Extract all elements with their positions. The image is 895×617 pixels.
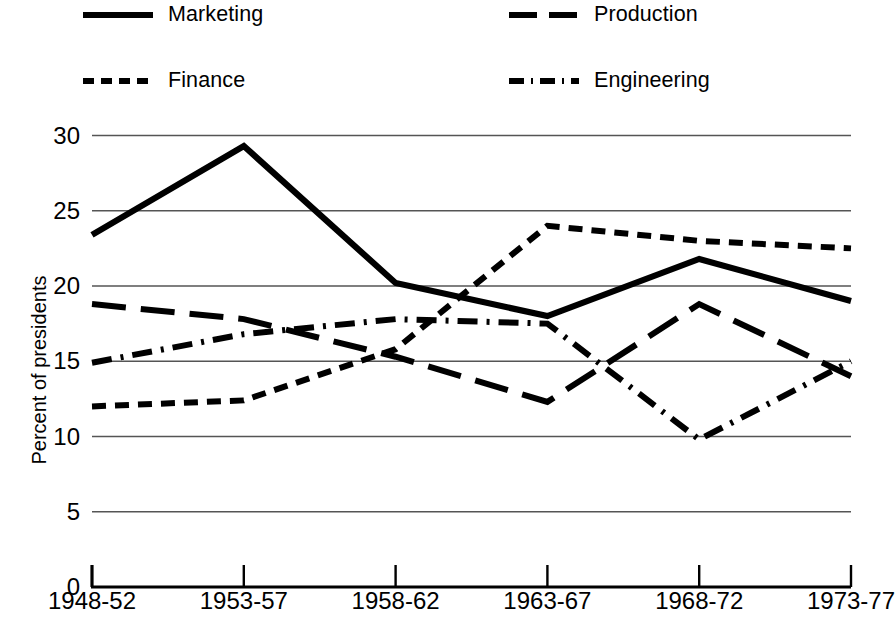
series-line-engineering [92, 319, 851, 439]
x-tick-label: 1958-62 [352, 589, 440, 613]
axis-lines [91, 565, 851, 587]
y-axis-title: Percent of presidents [29, 255, 49, 485]
x-tick-label: 1953-57 [200, 589, 288, 613]
x-tick-label: 1973-77 [807, 589, 895, 613]
x-axis-ticks [244, 565, 851, 587]
x-tick-label: 1968-72 [655, 589, 743, 613]
y-tick-label: 5 [34, 500, 80, 524]
x-tick-label: 1948-52 [48, 589, 136, 613]
x-tick-label: 1963-67 [503, 589, 591, 613]
y-tick-label: 30 [34, 124, 80, 148]
y-tick-label: 25 [34, 199, 80, 223]
data-series-group [92, 146, 851, 439]
series-line-marketing [92, 146, 851, 316]
